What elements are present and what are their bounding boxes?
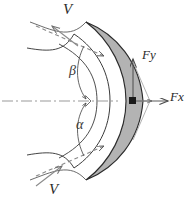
velocity-label-bottom: V <box>49 182 58 197</box>
angle-arc-beta <box>78 46 87 99</box>
velocity-label-top: V <box>63 2 72 17</box>
jet-axis-top-dashed <box>36 26 104 56</box>
force-application-point-marker <box>129 97 136 104</box>
force-label-fy: Fy <box>142 48 156 61</box>
force-label-fx: Fx <box>170 90 184 103</box>
angle-tick-lower <box>86 101 91 106</box>
diagram-canvas <box>0 0 195 203</box>
jet-top-inner-edge <box>27 34 74 50</box>
velocity-arrow-top <box>52 26 78 46</box>
angle-label-beta: β <box>69 64 76 78</box>
angle-label-alpha: α <box>76 118 83 132</box>
angle-tick-upper <box>86 96 91 101</box>
jet-vane-force-diagram: V V Fy Fx β α <box>0 0 195 203</box>
jet-bottom-inner-edge <box>27 153 74 168</box>
jet-axis-bottom-dashed <box>36 146 104 176</box>
